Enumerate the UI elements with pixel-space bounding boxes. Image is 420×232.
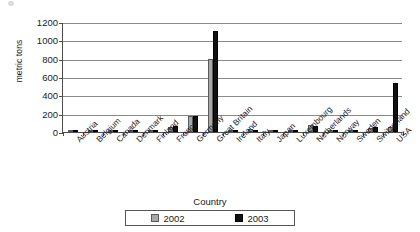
x-axis-title: Country (0, 196, 420, 207)
legend-label-2003: 2003 (247, 213, 268, 224)
legend-label-2002: 2002 (163, 213, 184, 224)
legend-swatch-2002 (151, 214, 159, 222)
legend-item-2003: 2003 (235, 213, 268, 224)
bar-chart: metric tons 020040060080010001200 Austri… (0, 0, 420, 232)
legend-item-2002: 2002 (151, 213, 184, 224)
chart-legend: 20022003 (125, 210, 295, 226)
x-label-japan: Japan (274, 121, 297, 144)
legend-swatch-2003 (235, 214, 243, 222)
x-label-austria: Austria (74, 118, 100, 144)
x-label-italy: Italy (254, 126, 272, 144)
